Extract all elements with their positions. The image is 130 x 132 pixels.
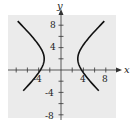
hyperbola-graph: x y -4 4 8 8 4 -4 -8 — [0, 0, 130, 132]
y-axis-label: y — [56, 0, 63, 11]
x-axis-label: x — [124, 64, 130, 75]
x-tick-label-neg4: -4 — [33, 74, 42, 84]
y-tick-label-4: 4 — [50, 42, 56, 52]
x-tick-label-4: 4 — [80, 74, 86, 84]
x-tick-label-8: 8 — [102, 74, 108, 84]
x-axis-arrow-icon — [116, 68, 122, 73]
y-tick-label-8: 8 — [50, 20, 56, 30]
y-tick-label-neg4: -4 — [45, 88, 54, 98]
plot-background — [8, 15, 116, 118]
y-tick-label-neg8: -8 — [45, 111, 54, 121]
